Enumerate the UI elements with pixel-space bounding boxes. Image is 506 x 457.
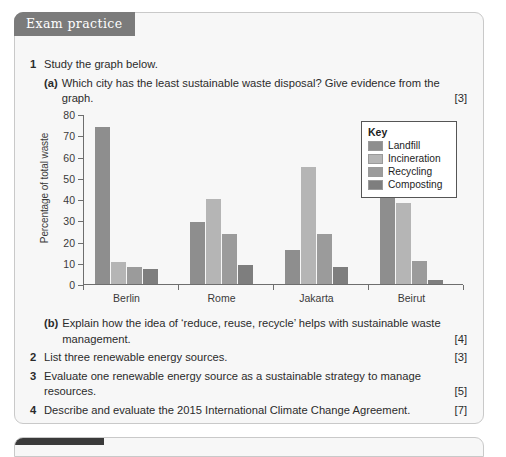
chart-y-tick <box>78 243 83 244</box>
question-2-number: 2 <box>27 350 44 366</box>
chart-bar <box>143 269 158 284</box>
chart-y-tick <box>78 264 83 265</box>
question-1b-gutter <box>27 316 44 347</box>
question-4-marks: [7] <box>455 403 467 419</box>
chart-y-tick-label: 80 <box>63 109 75 121</box>
chart-legend-item: Recycling <box>368 166 450 178</box>
chart-bar <box>428 280 443 284</box>
chart-y-axis-label: Percentage of total waste <box>39 113 53 263</box>
chart-y-tick-label: 10 <box>63 258 75 270</box>
chart-y-axis-line <box>83 115 84 285</box>
question-1b-text: Explain how the idea of ‘reduce, reuse, … <box>62 316 445 347</box>
chart-bar <box>301 167 316 284</box>
question-1a-text: Which city has the least sustainable was… <box>62 76 445 107</box>
chart-x-tick <box>463 285 464 290</box>
next-panel-banner <box>14 437 104 445</box>
chart-bar <box>396 203 411 284</box>
legend-item-label: Landfill <box>388 140 420 152</box>
legend-swatch-icon <box>368 154 383 164</box>
question-3-number: 3 <box>27 369 44 400</box>
legend-item-label: Recycling <box>388 166 432 178</box>
question-3-body: Evaluate one renewable energy source as … <box>44 369 469 400</box>
chart-bar <box>190 222 205 284</box>
chart-x-category-label: Jakarta <box>299 292 333 304</box>
chart-bar <box>111 262 126 284</box>
question-3-row: 3 Evaluate one renewable energy source a… <box>15 369 483 400</box>
chart-y-tick <box>78 200 83 201</box>
exam-practice-panel: Exam practice 1 Study the graph below. (… <box>14 12 484 424</box>
question-1a-body: (a) Which city has the least sustainable… <box>44 76 469 107</box>
legend-item-label: Incineration <box>388 153 441 165</box>
question-1b-label: (b) <box>44 316 58 347</box>
chart-legend: Key LandfillIncinerationRecyclingCompost… <box>361 121 457 198</box>
chart-y-tick <box>78 136 83 137</box>
questions-lower-block: (b) Explain how the idea of ‘reduce, reu… <box>15 316 483 418</box>
question-2-body: List three renewable energy sources. [3] <box>44 350 469 366</box>
chart-bar <box>238 265 253 284</box>
chart-bar <box>285 250 300 284</box>
chart-y-tick-label: 30 <box>63 215 75 227</box>
question-3-text: Evaluate one renewable energy source as … <box>44 370 421 398</box>
question-1-block: 1 Study the graph below. (a) Which city … <box>15 57 483 107</box>
question-1a-marks: [3] <box>455 91 467 107</box>
chart-y-tick <box>78 221 83 222</box>
chart-bar <box>206 199 221 284</box>
question-1a-label: (a) <box>44 76 58 107</box>
question-1b-body: (b) Explain how the idea of ‘reduce, reu… <box>44 316 469 347</box>
question-1a-row: (a) Which city has the least sustainable… <box>15 76 483 107</box>
legend-swatch-icon <box>368 180 383 190</box>
question-4-text: Describe and evaluate the 2015 Internati… <box>44 404 410 416</box>
chart-legend-items: LandfillIncinerationRecyclingComposting <box>368 140 450 191</box>
chart-y-tick <box>78 179 83 180</box>
question-2-row: 2 List three renewable energy sources. [… <box>15 350 483 366</box>
legend-item-label: Composting <box>388 179 442 191</box>
chart-x-category-label: Beirut <box>398 292 425 304</box>
question-1-stem-row: 1 Study the graph below. <box>15 57 483 73</box>
chart-bar <box>222 234 237 284</box>
exam-practice-banner: Exam practice <box>14 12 135 36</box>
chart-legend-item: Landfill <box>368 140 450 152</box>
chart-y-tick <box>78 158 83 159</box>
question-1b-row: (b) Explain how the idea of ‘reduce, reu… <box>15 316 483 347</box>
chart-bar <box>333 267 348 284</box>
question-4-number: 4 <box>27 403 44 419</box>
chart-legend-title: Key <box>368 126 450 138</box>
chart-bar <box>317 234 332 284</box>
question-3-marks: [5] <box>455 384 467 400</box>
legend-swatch-icon <box>368 167 383 177</box>
chart-bar <box>412 261 427 284</box>
chart-legend-item: Composting <box>368 179 450 191</box>
chart-y-tick-label: 40 <box>63 194 75 206</box>
question-4-body: Describe and evaluate the 2015 Internati… <box>44 403 469 419</box>
chart-y-tick-label: 0 <box>69 279 75 291</box>
chart-x-category-label: Rome <box>207 292 235 304</box>
question-1-number: 1 <box>27 57 44 73</box>
question-2-text: List three renewable energy sources. <box>44 351 227 363</box>
chart-legend-item: Incineration <box>368 153 450 165</box>
chart-y-tick <box>78 115 83 116</box>
chart-bar <box>127 267 142 284</box>
chart-x-category-label: Berlin <box>113 292 140 304</box>
question-1a-gutter <box>27 76 44 107</box>
legend-swatch-icon <box>368 141 383 151</box>
question-1b-marks: [4] <box>455 332 467 348</box>
chart-x-tick <box>273 285 274 290</box>
chart-y-tick-label: 60 <box>63 152 75 164</box>
question-4-row: 4 Describe and evaluate the 2015 Interna… <box>15 403 483 419</box>
chart-bar <box>95 127 110 284</box>
chart-y-tick-label: 70 <box>63 130 75 142</box>
next-panel-partial <box>14 437 484 457</box>
chart-x-tick <box>368 285 369 290</box>
chart-y-tick-label: 20 <box>63 237 75 249</box>
chart-y-tick-label: 50 <box>63 173 75 185</box>
question-1-stem: Study the graph below. <box>44 57 469 73</box>
question-2-marks: [3] <box>455 350 467 366</box>
chart-x-tick <box>83 285 84 290</box>
chart-x-tick <box>178 285 179 290</box>
